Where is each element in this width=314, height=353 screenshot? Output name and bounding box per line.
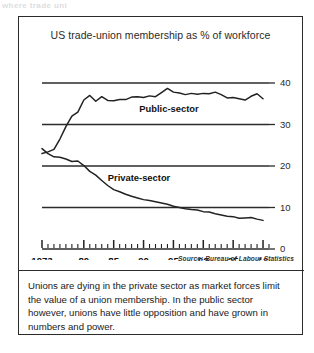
- series-labels-group: Public-sectorPrivate-sector: [108, 103, 199, 183]
- x-axis-label-1980: 80: [78, 255, 89, 260]
- y-axis-label-20: 20: [280, 160, 291, 171]
- x-axis-label-1973: 1973: [31, 255, 52, 260]
- chart-panel: US trade-union membership as % of workfo…: [19, 17, 302, 260]
- caption-text: Unions are dying in the private sector a…: [28, 279, 294, 333]
- y-axis-labels-group: 010203040: [280, 77, 291, 254]
- line-chart: 010203040 197380859095000510 Public-sect…: [19, 17, 304, 260]
- y-axis-label-0: 0: [280, 243, 285, 254]
- caption-block: Unions are dying in the private sector a…: [19, 270, 304, 333]
- x-axis-label-1990: 90: [138, 255, 149, 260]
- source-note: Source: Bureau of Labour Statistics: [178, 255, 294, 262]
- series-label-private-sector: Private-sector: [108, 172, 171, 183]
- y-axis-label-10: 10: [280, 202, 291, 213]
- y-axis-label-40: 40: [280, 77, 291, 88]
- y-axis-label-30: 30: [280, 119, 291, 130]
- infographic-figure: US trade-union membership as % of workfo…: [18, 16, 303, 335]
- series-line-public-sector: [42, 88, 263, 153]
- x-axis-label-1985: 85: [108, 255, 119, 260]
- series-label-public-sector: Public-sector: [139, 103, 199, 114]
- series-line-private-sector: [42, 149, 263, 221]
- top-bleed-text: where trade uni: [0, 0, 314, 12]
